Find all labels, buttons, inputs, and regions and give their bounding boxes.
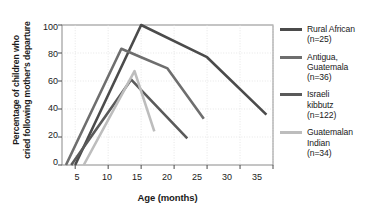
chart-figure: Percentage of children who cried followi…	[0, 0, 377, 214]
series-lines	[66, 25, 266, 165]
chart-legend: Rural African (n=25) Antigua, Guatemala …	[280, 24, 376, 165]
legend-item-israeli-kibbutz[interactable]: Israeli kibbutz (n=122)	[280, 89, 376, 120]
legend-swatch-israeli-kibbutz	[280, 93, 302, 96]
legend-label-guatemalan-line3: (n=34)	[307, 148, 353, 158]
legend-label-antigua-line2: Guatemala	[307, 62, 348, 72]
series-line-antigua-guatemala	[66, 49, 204, 165]
legend-item-rural-african[interactable]: Rural African (n=25)	[280, 24, 376, 45]
legend-label-antigua-line1: Antigua,	[307, 52, 348, 62]
legend-label-guatemalan-line2: Indian	[307, 138, 353, 148]
legend-label-guatemalan-line1: Guatemalan	[307, 127, 353, 137]
legend-swatch-guatemalan-indian	[280, 131, 302, 134]
legend-label-rural-african-line1: Rural African	[307, 24, 355, 34]
axis-ticks	[58, 25, 273, 169]
legend-label-rural-african-line2: (n=25)	[307, 34, 355, 44]
legend-swatch-antigua-guatemala	[280, 56, 302, 59]
legend-label-israeli-line1: Israeli	[307, 89, 336, 99]
legend-label-israeli-line2: kibbutz	[307, 100, 336, 110]
series-line-rural-african	[75, 25, 266, 165]
legend-item-antigua-guatemala[interactable]: Antigua, Guatemala (n=36)	[280, 52, 376, 83]
legend-swatch-rural-african	[280, 28, 302, 31]
series-line-israeli-kibbutz	[71, 80, 187, 165]
series-line-guatemalan-indian	[84, 71, 155, 165]
legend-label-antigua-line3: (n=36)	[307, 72, 348, 82]
legend-label-israeli-line3: (n=122)	[307, 110, 336, 120]
legend-item-guatemalan-indian[interactable]: Guatemalan Indian (n=34)	[280, 127, 376, 158]
